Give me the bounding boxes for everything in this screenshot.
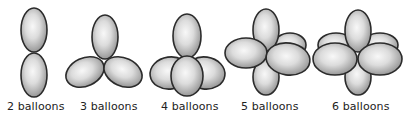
cluster-4-balloons (148, 14, 227, 96)
cluster-6-balloons (313, 10, 402, 95)
balloon-shape (313, 43, 357, 75)
balloon-shape (173, 14, 201, 58)
balloon-shape (21, 53, 47, 97)
label-6-balloons: 6 balloons (332, 100, 390, 113)
balloon-shape (92, 15, 118, 59)
balloon-shape (171, 56, 203, 96)
label-2-balloons: 2 balloons (7, 100, 65, 113)
cluster-2-balloons (21, 8, 47, 97)
balloon-shape (21, 8, 47, 52)
cluster-5-balloons (225, 9, 312, 95)
cluster-3-balloons (61, 15, 147, 93)
label-4-balloons: 4 balloons (161, 100, 219, 113)
balloon-shape (358, 43, 402, 75)
label-3-balloons: 3 balloons (80, 100, 138, 113)
balloon-cluster-diagram: 2 balloons 3 balloons 4 balloons 5 ballo… (0, 0, 414, 122)
label-5-balloons: 5 balloons (241, 100, 299, 113)
balloon-shape (225, 38, 267, 68)
